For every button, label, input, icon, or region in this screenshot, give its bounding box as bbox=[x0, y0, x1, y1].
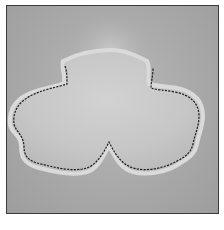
photo bbox=[6, 5, 219, 214]
felt-shape-illustration bbox=[7, 6, 218, 213]
photo-caption bbox=[8, 216, 220, 230]
felt-body bbox=[10, 50, 203, 174]
